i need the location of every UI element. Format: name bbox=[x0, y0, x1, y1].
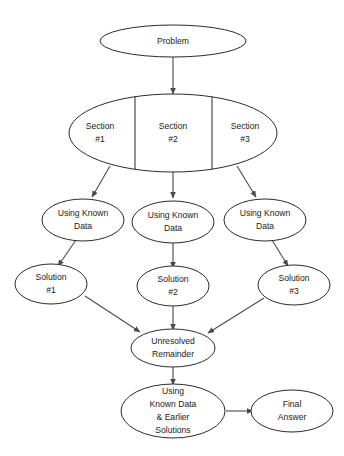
edge-known-data-3-to-solution-3 bbox=[272, 240, 288, 266]
edge-sections-to-known-data-1 bbox=[92, 166, 110, 197]
edge-known-data-1-to-solution-1 bbox=[58, 240, 76, 266]
node-solution-3[interactable]: Solution #3 bbox=[258, 265, 330, 305]
section-3-label-line2: #3 bbox=[240, 134, 250, 144]
final-method-label-line2: Known Data bbox=[150, 399, 197, 409]
section-1-label-line1: Section bbox=[86, 121, 115, 131]
node-problem[interactable]: Problem bbox=[100, 25, 246, 57]
solution-2-label-line2: #2 bbox=[168, 287, 178, 297]
sections-ellipse bbox=[69, 94, 277, 172]
flowchart-canvas: Problem Section #1 Section #2 Section #3… bbox=[0, 0, 344, 456]
solution-2-label-line1: Solution bbox=[157, 274, 188, 284]
unresolved-remainder-ellipse bbox=[131, 329, 215, 367]
known-data-1-label-line2: Data bbox=[74, 221, 92, 231]
edge-solution-1-to-unresolved bbox=[85, 296, 140, 332]
node-known-data-1[interactable]: Using Known Data bbox=[42, 199, 124, 241]
node-solution-1[interactable]: Solution #1 bbox=[15, 264, 87, 304]
node-solution-2[interactable]: Solution #2 bbox=[137, 266, 209, 306]
known-data-2-ellipse bbox=[132, 201, 214, 243]
solution-3-ellipse bbox=[258, 265, 330, 305]
node-final-answer[interactable]: Final Answer bbox=[251, 390, 333, 432]
final-method-label-line4: Solutions bbox=[155, 425, 190, 435]
problem-label: Problem bbox=[157, 36, 189, 46]
edge-solution-3-to-unresolved bbox=[208, 298, 264, 333]
known-data-3-label-line2: Data bbox=[256, 221, 274, 231]
node-known-data-3[interactable]: Using Known Data bbox=[224, 199, 306, 241]
solution-1-label-line1: Solution bbox=[35, 272, 66, 282]
solution-2-ellipse bbox=[137, 266, 209, 306]
solution-3-label-line2: #3 bbox=[289, 286, 299, 296]
node-final-method[interactable]: Using Known Data & Earlier Solutions bbox=[121, 384, 225, 438]
known-data-3-label-line1: Using Known bbox=[240, 208, 291, 218]
final-method-label-line3: & Earlier bbox=[157, 412, 190, 422]
unresolved-remainder-label-line1: Unresolved bbox=[151, 336, 195, 346]
node-unresolved-remainder[interactable]: Unresolved Remainder bbox=[131, 329, 215, 367]
known-data-1-ellipse bbox=[42, 199, 124, 241]
final-answer-label-line1: Final bbox=[283, 399, 302, 409]
solution-1-ellipse bbox=[15, 264, 87, 304]
node-sections[interactable]: Section #1 Section #2 Section #3 bbox=[69, 94, 277, 172]
section-2-label-line1: Section bbox=[159, 121, 188, 131]
final-method-label-line1: Using bbox=[162, 386, 184, 396]
unresolved-remainder-label-line2: Remainder bbox=[152, 349, 194, 359]
final-answer-label-line2: Answer bbox=[278, 412, 307, 422]
final-answer-ellipse bbox=[251, 390, 333, 432]
known-data-1-label-line1: Using Known bbox=[58, 208, 109, 218]
edge-sections-to-known-data-3 bbox=[237, 166, 256, 197]
section-1-label-line2: #1 bbox=[95, 134, 105, 144]
section-3-label-line1: Section bbox=[231, 121, 260, 131]
flowchart-diagram: Problem Section #1 Section #2 Section #3… bbox=[0, 0, 344, 456]
known-data-2-label-line1: Using Known bbox=[148, 210, 199, 220]
solution-3-label-line1: Solution bbox=[278, 273, 309, 283]
section-2-label-line2: #2 bbox=[168, 134, 178, 144]
solution-1-label-line2: #1 bbox=[46, 285, 56, 295]
known-data-3-ellipse bbox=[224, 199, 306, 241]
node-known-data-2[interactable]: Using Known Data bbox=[132, 201, 214, 243]
known-data-2-label-line2: Data bbox=[164, 223, 182, 233]
